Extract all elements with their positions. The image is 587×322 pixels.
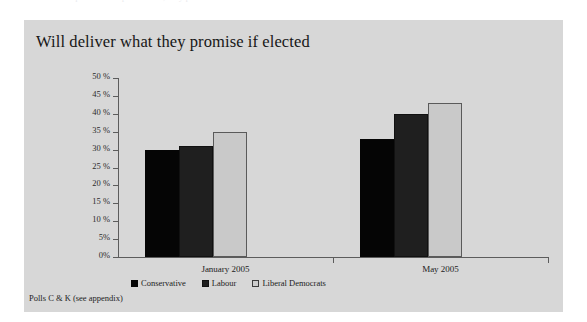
- y-axis-tick-mark: [113, 132, 118, 133]
- y-axis-tick-mark: [113, 257, 118, 258]
- x-axis-separator: [333, 257, 334, 263]
- y-axis-tick-mark: [113, 221, 118, 222]
- chart-legend: ConservativeLabourLiberal Democrats: [131, 278, 326, 288]
- bar-liberal-democrats-january-2005: [213, 132, 247, 257]
- chart-panel: Will deliver what they promise if electe…: [24, 20, 563, 312]
- bar-labour-may-2005: [394, 114, 428, 257]
- legend-swatch-icon: [131, 280, 138, 287]
- source-note: Polls C & K (see appendix): [29, 293, 123, 303]
- y-axis-tick-mark: [113, 150, 118, 151]
- page-top-bleed: the question was put to them; they promi…: [0, 0, 587, 13]
- y-axis-tick-label: 35 %: [92, 125, 110, 135]
- y-axis-tick-mark: [113, 114, 118, 115]
- y-axis-tick-label: 30 %: [92, 143, 110, 153]
- y-axis-tick-label: 20 %: [92, 178, 110, 188]
- legend-swatch-icon: [252, 280, 259, 287]
- y-axis-tick-label: 15 %: [92, 196, 110, 206]
- y-axis-tick-label: 25 %: [92, 161, 110, 171]
- y-axis-tick-mark: [113, 78, 118, 79]
- y-axis-tick-label: 45 %: [92, 89, 110, 99]
- plot-area: 0%5%10 %15 %20 %25 %30 %35 %40 %45 %50 %…: [118, 78, 548, 257]
- y-axis-tick-label: 40 %: [92, 107, 110, 117]
- y-axis-tick-label: 0%: [99, 250, 110, 260]
- bar-labour-january-2005: [179, 146, 213, 257]
- chart-title: Will deliver what they promise if electe…: [36, 32, 310, 52]
- y-axis-tick-mark: [113, 96, 118, 97]
- legend-swatch-icon: [202, 280, 209, 287]
- y-axis-tick-mark: [113, 168, 118, 169]
- x-axis-category-label: May 2005: [333, 264, 548, 274]
- x-axis-separator: [548, 257, 549, 263]
- x-axis-category-label: January 2005: [118, 264, 333, 274]
- legend-item-liberal-democrats: Liberal Democrats: [252, 278, 325, 288]
- legend-item-conservative: Conservative: [131, 278, 186, 288]
- legend-label: Labour: [212, 278, 237, 288]
- bar-conservative-january-2005: [145, 150, 179, 257]
- y-axis-tick-label: 10 %: [92, 214, 110, 224]
- y-axis-tick-mark: [113, 185, 118, 186]
- y-axis-tick-label: 5%: [99, 232, 110, 242]
- y-axis-line: [118, 78, 119, 257]
- y-axis-tick-label: 50 %: [92, 71, 110, 81]
- bar-liberal-democrats-may-2005: [428, 103, 462, 257]
- y-axis-tick-mark: [113, 239, 118, 240]
- legend-label: Conservative: [141, 278, 186, 288]
- bleed-text: the question was put to them; they promi…: [60, 0, 250, 2]
- bar-conservative-may-2005: [360, 139, 394, 257]
- legend-label: Liberal Democrats: [262, 278, 325, 288]
- y-axis-tick-mark: [113, 203, 118, 204]
- legend-item-labour: Labour: [202, 278, 237, 288]
- figure-root: the question was put to them; they promi…: [0, 0, 587, 322]
